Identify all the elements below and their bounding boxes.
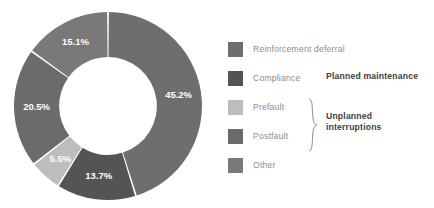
donut-chart: 45.2% 13.7% 5.5% 20.5% 15.1% — [8, 6, 208, 206]
legend-label-reinforcement-deferral: Reinforcement deferral — [253, 44, 345, 54]
donut-chart-figure: 45.2% 13.7% 5.5% 20.5% 15.1% Reinforceme… — [0, 0, 434, 208]
donut-svg: 45.2% 13.7% 5.5% 20.5% 15.1% — [8, 6, 208, 206]
group-label-planned-maintenance: Planned maintenance — [326, 71, 418, 82]
legend-swatch-prefault — [228, 100, 243, 115]
legend-swatch-other — [228, 158, 243, 173]
legend-label-other: Other — [253, 160, 276, 170]
slice-label-postfault: 20.5% — [23, 101, 50, 112]
legend-swatch-postfault — [228, 129, 243, 144]
group-label-unplanned-line1: Unplanned — [326, 111, 382, 122]
legend-item-prefault[interactable]: Prefault — [228, 94, 284, 120]
legend-label-postfault: Postfault — [253, 131, 288, 141]
group-label-unplanned-interruptions: Unplanned interruptions — [326, 111, 382, 133]
slice-label-prefault: 5.5% — [49, 153, 71, 164]
legend-label-compliance: Compliance — [253, 73, 300, 83]
legend-item-compliance[interactable]: Compliance — [228, 65, 300, 91]
legend-item-other[interactable]: Other — [228, 152, 276, 178]
legend-swatch-compliance — [228, 71, 243, 86]
group-label-unplanned-line2: interruptions — [326, 122, 382, 133]
slice-label-reinforcement-deferral: 45.2% — [165, 89, 192, 100]
legend-item-postfault[interactable]: Postfault — [228, 123, 288, 149]
legend-swatch-reinforcement-deferral — [228, 42, 243, 57]
slice-label-other: 15.1% — [62, 36, 89, 47]
legend-item-reinforcement-deferral[interactable]: Reinforcement deferral — [228, 36, 345, 62]
brace-icon — [308, 98, 318, 152]
chart-legend: Reinforcement deferral Compliance Prefau… — [228, 36, 434, 186]
legend-label-prefault: Prefault — [253, 102, 284, 112]
slice-label-compliance: 13.7% — [85, 170, 112, 181]
